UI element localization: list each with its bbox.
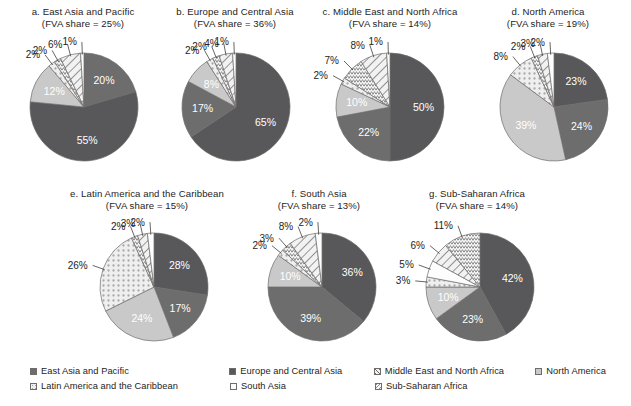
chart-title-main-d: d. North America — [511, 6, 584, 17]
pie-label-e-1: 17% — [170, 301, 191, 313]
legend-label: South Asia — [241, 381, 286, 392]
chart-title-sub-g: (FVA share = 14%) — [392, 200, 562, 212]
pie-label-d-0: 23% — [565, 75, 586, 87]
chart-panel-a: a. East Asia and Pacific(FVA share = 25%… — [8, 6, 158, 181]
pie-wrap-f: 36%39%10%2%3%8%2% — [244, 213, 394, 363]
legend-row-2: Latin America and the CaribbeanSouth Asi… — [30, 381, 630, 396]
legend-item-middle-east-and-north-africa[interactable]: Middle East and North Africa — [374, 366, 535, 377]
pie-label-a-5: 6% — [48, 38, 63, 49]
pie-label-f-5: 8% — [279, 221, 294, 232]
pie-label-e-0: 28% — [169, 258, 190, 270]
pie-label-c-2: 10% — [346, 96, 367, 108]
chart-title-sub-f: (FVA share = 13%) — [244, 200, 394, 212]
legend-item-north-america[interactable]: North America — [535, 366, 630, 377]
pie-label-f-2: 10% — [280, 270, 301, 282]
chart-title-a: a. East Asia and Pacific(FVA share = 25%… — [8, 6, 158, 31]
legend-swatch-diagonal-hatch-icon — [374, 368, 381, 375]
pie-label-c-4: 7% — [325, 55, 340, 66]
legend-swatch-solid-darker-gray-icon — [229, 368, 236, 375]
pie-wrap-a: 20%55%12%2%2%6%1% — [8, 31, 158, 181]
pie-label-g-6: 11% — [434, 220, 453, 231]
legend-label: Middle East and North Africa — [385, 366, 504, 377]
chart-title-e: e. Latin America and the Caribbean(FVA s… — [56, 188, 238, 213]
pie-label-d-1: 24% — [571, 119, 592, 131]
pie-wrap-g: 42%23%10%3%5%6%11% — [392, 213, 562, 363]
pie-label-g-3: 3% — [396, 275, 411, 286]
legend-item-east-asia-and-pacific[interactable]: East Asia and Pacific — [30, 366, 229, 377]
legend-item-south-asia[interactable]: South Asia — [230, 381, 375, 392]
pie-label-f-1: 39% — [300, 312, 321, 324]
chart-title-main-g: g. Sub-Saharan Africa — [429, 188, 525, 199]
chart-title-sub-d: (FVA share = 19%) — [472, 18, 624, 30]
pie-leader-c-4 — [344, 61, 353, 70]
pie-label-f-0: 36% — [342, 266, 363, 278]
chart-title-main-f: f. South Asia — [291, 188, 346, 199]
pie-chart-f: 36%39%10%2%3%8%2% — [244, 213, 394, 363]
pie-label-g-1: 23% — [462, 313, 483, 325]
pie-label-f-4: 3% — [260, 232, 275, 243]
pie-leader-a-4 — [52, 50, 58, 61]
pie-label-b-6: 1% — [214, 36, 229, 47]
chart-title-main-b: b. Europe and Central Asia — [176, 6, 293, 17]
chart-title-main-a: a. East Asia and Pacific — [32, 6, 135, 17]
chart-title-f: f. South Asia(FVA share = 13%) — [244, 188, 394, 213]
chart-title-sub-c: (FVA share = 14%) — [310, 18, 470, 30]
pie-label-f-6: 2% — [298, 216, 313, 227]
legend-label: Europe and Central Asia — [240, 366, 342, 377]
chart-title-sub-b: (FVA share = 36%) — [160, 18, 310, 30]
pie-label-a-0: 20% — [93, 73, 114, 85]
legend-label: Latin America and the Caribbean — [41, 381, 178, 392]
pie-wrap-d: 23%24%39%8%2%3%2% — [472, 31, 624, 181]
chart-panel-c: c. Middle East and North Africa(FVA shar… — [310, 6, 470, 181]
chart-title-sub-a: (FVA share = 25%) — [8, 18, 158, 30]
pie-label-c-5: 8% — [350, 39, 365, 50]
pie-label-b-2: 8% — [204, 77, 219, 89]
pie-label-a-1: 55% — [77, 133, 98, 145]
pie-label-a-2: 12% — [44, 85, 65, 97]
legend-item-europe-and-central-asia[interactable]: Europe and Central Asia — [229, 366, 374, 377]
pie-label-d-2: 39% — [515, 118, 536, 130]
pie-label-c-6: 1% — [369, 36, 384, 47]
pie-leader-g-5 — [430, 245, 440, 253]
pie-leader-c-3 — [333, 75, 344, 81]
pie-label-e-6: 2% — [131, 216, 146, 227]
chart-title-sub-e: (FVA share = 15%) — [56, 200, 238, 212]
pie-label-g-2: 10% — [438, 290, 459, 302]
pie-chart-e: 28%17%24%26%2%3%2% — [56, 213, 238, 363]
pie-label-c-0: 50% — [413, 100, 434, 112]
chart-title-c: c. Middle East and North Africa(FVA shar… — [310, 6, 470, 31]
legend-row-1: East Asia and PacificEurope and Central … — [30, 366, 630, 381]
chart-panel-d: d. North America(FVA share = 19%) 23%24%… — [472, 6, 624, 181]
pie-leader-d-3 — [513, 56, 521, 66]
pie-label-c-3: 2% — [314, 70, 329, 81]
pie-chart-figure: a. East Asia and Pacific(FVA share = 25%… — [0, 0, 631, 406]
pie-wrap-c: 50%22%10%2%7%8%1% — [310, 31, 470, 181]
chart-panel-g: g. Sub-Saharan Africa(FVA share = 14%) 4… — [392, 188, 562, 363]
legend-item-latin-america-and-the-caribbean[interactable]: Latin America and the Caribbean — [30, 381, 230, 392]
pie-label-c-1: 22% — [358, 126, 379, 138]
pie-label-b-0: 65% — [255, 116, 276, 128]
legend: East Asia and PacificEurope and Central … — [30, 366, 630, 396]
pie-label-b-1: 17% — [192, 102, 213, 114]
pie-chart-g: 42%23%10%3%5%6%11% — [392, 213, 562, 363]
pie-leader-f-3 — [272, 245, 282, 253]
pie-chart-d: 23%24%39%8%2%3%2% — [472, 31, 624, 181]
pie-leader-e-3 — [93, 265, 105, 269]
pie-label-g-0: 42% — [502, 272, 523, 284]
legend-label: Sub-Saharan Africa — [386, 381, 468, 392]
pie-label-e-2: 24% — [131, 311, 152, 323]
pie-wrap-b: 65%17%8%2%2%4%1% — [160, 31, 310, 181]
legend-item-sub-saharan-africa[interactable]: Sub-Saharan Africa — [375, 381, 537, 392]
pie-label-d-6: 2% — [531, 36, 546, 47]
pie-leader-f-5 — [298, 226, 303, 238]
pie-leader-g-6 — [458, 225, 462, 237]
legend-swatch-solid-dark-gray-icon — [30, 368, 37, 375]
chart-panel-b: b. Europe and Central Asia(FVA share = 3… — [160, 6, 310, 181]
pie-label-g-5: 6% — [410, 240, 425, 251]
chart-title-main-c: c. Middle East and North Africa — [323, 6, 458, 17]
pie-label-a-6: 1% — [62, 36, 77, 47]
pie-chart-c: 50%22%10%2%7%8%1% — [310, 31, 470, 181]
pie-leader-a-3 — [45, 54, 53, 64]
chart-title-g: g. Sub-Saharan Africa(FVA share = 14%) — [392, 188, 562, 213]
legend-label: North America — [546, 366, 606, 377]
